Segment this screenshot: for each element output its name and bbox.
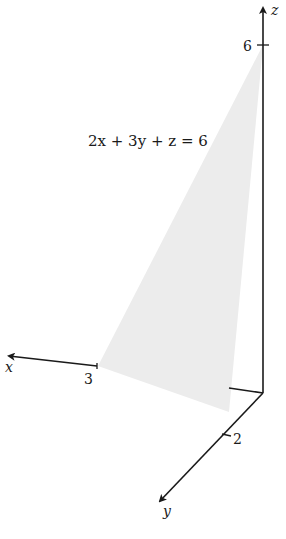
y-tick-label: 2 [233, 431, 242, 447]
plane-diagram: 6 z 3 x 2 y 2x + 3y + z = 6 [0, 0, 286, 539]
y-axis-label: y [162, 503, 172, 519]
z-tick-label: 6 [243, 38, 252, 54]
plane-triangle [98, 45, 263, 412]
x-axis [9, 356, 97, 366]
x-tick-label: 3 [84, 371, 93, 387]
y-axis [160, 393, 263, 501]
z-axis-label: z [270, 2, 279, 18]
x-axis-label: x [5, 359, 13, 375]
x-axis-segment [229, 388, 263, 393]
equation-label: 2x + 3y + z = 6 [88, 132, 208, 150]
